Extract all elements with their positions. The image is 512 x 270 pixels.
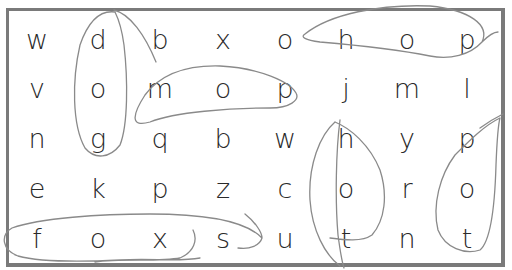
cell-r1-c1[interactable]: w: [17, 20, 57, 60]
cell-r4-c1[interactable]: e: [17, 169, 57, 209]
cell-r3-c8[interactable]: p: [447, 119, 487, 159]
cell-r4-c7[interactable]: r: [387, 169, 427, 209]
cell-r4-c2[interactable]: k: [78, 169, 118, 209]
cell-r2-c4[interactable]: o: [203, 69, 243, 109]
cell-r2-c3[interactable]: m: [140, 69, 180, 109]
cell-r1-c6[interactable]: h: [326, 20, 366, 60]
cell-r5-c2[interactable]: o: [78, 219, 118, 259]
cell-r2-c6[interactable]: j: [326, 69, 366, 109]
cell-r2-c8[interactable]: l: [447, 69, 487, 109]
cell-r2-c7[interactable]: m: [387, 69, 427, 109]
cell-r4-c3[interactable]: p: [140, 169, 180, 209]
cell-r1-c3[interactable]: b: [140, 20, 180, 60]
cell-r4-c4[interactable]: z: [203, 169, 243, 209]
cell-r1-c5[interactable]: o: [265, 20, 305, 60]
cell-r3-c1[interactable]: n: [17, 119, 57, 159]
cell-r3-c7[interactable]: y: [387, 119, 427, 159]
cell-r2-c1[interactable]: v: [17, 69, 57, 109]
cell-r3-c5[interactable]: w: [265, 119, 305, 159]
cell-r3-c4[interactable]: b: [203, 119, 243, 159]
cell-r5-c3[interactable]: x: [140, 219, 180, 259]
cell-r1-c8[interactable]: p: [447, 20, 487, 60]
cell-r2-c2[interactable]: o: [78, 69, 118, 109]
cell-r5-c7[interactable]: n: [387, 219, 427, 259]
cell-r4-c6[interactable]: o: [326, 169, 366, 209]
cell-r2-c5[interactable]: p: [265, 69, 305, 109]
cell-r1-c4[interactable]: x: [203, 20, 243, 60]
cell-r4-c8[interactable]: o: [447, 169, 487, 209]
cell-r3-c6[interactable]: h: [326, 119, 366, 159]
cell-r5-c8[interactable]: t: [447, 219, 487, 259]
letter-grid: w d b x o h o p v o m o p j m l n g q b …: [0, 0, 512, 270]
cell-r4-c5[interactable]: c: [265, 169, 305, 209]
cell-r1-c7[interactable]: o: [387, 20, 427, 60]
cell-r5-c6[interactable]: t: [326, 219, 366, 259]
cell-r5-c5[interactable]: u: [265, 219, 305, 259]
cell-r5-c1[interactable]: f: [17, 219, 57, 259]
cell-r3-c3[interactable]: q: [140, 119, 180, 159]
cell-r5-c4[interactable]: s: [203, 219, 243, 259]
cell-r3-c2[interactable]: g: [78, 119, 118, 159]
cell-r1-c2[interactable]: d: [78, 20, 118, 60]
